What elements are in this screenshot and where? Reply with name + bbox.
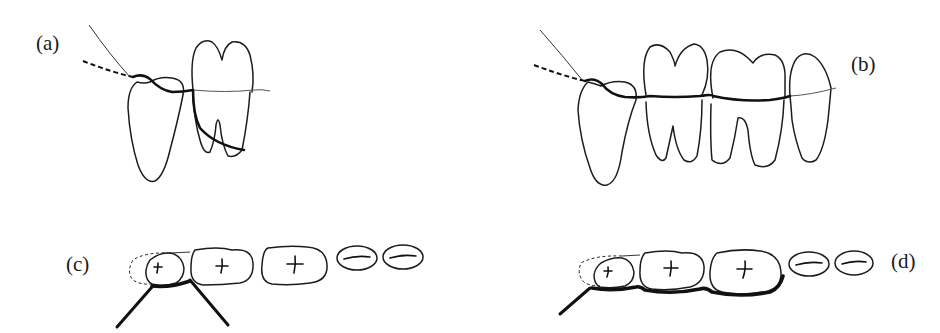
floss-wrapped: [592, 276, 783, 295]
panel-d-label: (d): [891, 249, 916, 273]
tooth-premolar-2-occlusal: [835, 251, 873, 275]
tooth-molar-2-occlusal: [640, 251, 704, 290]
floss-lead-line: [540, 30, 583, 81]
tooth-molar-3-occlusal: [710, 250, 781, 294]
fissure-cross: [604, 267, 612, 277]
floss-strand-left: [117, 287, 152, 327]
panel-a: (a): [36, 25, 270, 181]
panel-b: (b): [534, 30, 876, 185]
panel-c: (c): [66, 245, 423, 327]
panel-d: (d): [560, 249, 916, 314]
cej-line: [790, 88, 836, 96]
tooth-molar-crown: [192, 41, 253, 92]
panel-c-label: (c): [66, 252, 89, 276]
tooth-molar-last-occlusal: [594, 258, 634, 288]
floss-wrapped: [133, 75, 244, 150]
tooth-molar-3-crown: [711, 50, 785, 98]
fissure-line: [344, 256, 370, 259]
cej-line: [193, 90, 270, 92]
tooth-premolar-2-occlusal: [383, 245, 423, 269]
tooth-premolar-1-occlusal: [337, 246, 377, 270]
tooth-original-outline: [130, 253, 171, 284]
tooth-molar-roots: [193, 92, 250, 156]
floss-dashed-segment: [83, 61, 133, 77]
fissure-cross: [664, 261, 678, 276]
tooth-premolar: [790, 54, 831, 162]
tooth-molar-last-occlusal: [146, 253, 184, 285]
tooth-original-outline: [579, 256, 622, 286]
floss-dashed-segment: [534, 65, 585, 81]
fissure-cross: [216, 259, 228, 273]
floss-strand-right: [190, 280, 228, 325]
panel-b-label: (b): [851, 52, 876, 76]
floss-lead-line: [89, 25, 130, 77]
fissure-cross: [154, 263, 162, 273]
tooth-premolar-1-occlusal: [789, 252, 829, 276]
fissure-line: [796, 262, 822, 265]
panel-a-label: (a): [36, 31, 59, 55]
fissure-line: [390, 255, 416, 258]
dental-floss-diagram: (a) (b) (c): [0, 0, 940, 333]
fissure-cross: [287, 256, 303, 273]
fissure-cross: [737, 261, 752, 278]
tooth-molar-2-roots: [646, 100, 702, 162]
guide-line: [622, 255, 640, 256]
tooth-molar-2-crown: [644, 44, 708, 95]
tooth-molar-3-roots: [711, 100, 784, 167]
guide-line: [170, 252, 190, 253]
fissure-line: [842, 261, 866, 264]
floss-strand-left: [560, 288, 590, 314]
floss-wrapped: [585, 80, 790, 101]
